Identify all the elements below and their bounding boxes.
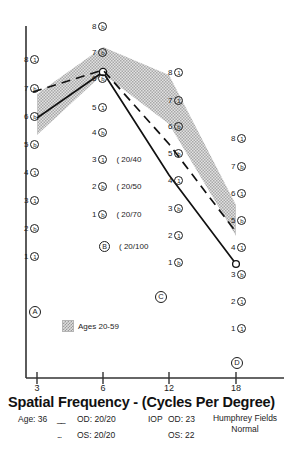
cs-entry-col18-8: 8 1 [231,134,246,143]
cs-entry-col18-6: 6 1 [231,189,246,198]
cs-num: 7 [24,85,28,93]
cs-num: 1 [92,211,96,219]
cs-entry-col6-6: 6 b [92,74,107,83]
cs-entry-col12-3: 3 b [168,204,183,213]
annotation-letter: A [29,306,41,318]
cs-num: 1 [168,259,172,267]
letter-circle-icon: 1 [30,196,39,205]
cs-num: 4 [24,169,28,177]
cs-num: 3 [231,271,235,279]
letter-circle-icon: b [98,128,107,137]
letter-circle-icon: b [30,224,39,233]
annotation-marker-a: A [29,300,41,318]
iop-os: OS: 22 [168,430,194,440]
letter-circle-icon: 1 [237,297,246,306]
letter-circle-icon: b [174,258,183,267]
od-line-style-key: __ [57,414,64,424]
cs-entry-col12-6: 6 b [168,122,183,131]
annotation-marker-d: D [231,351,243,369]
letter-circle-icon: b [237,162,246,171]
x-tick-label-12: 12 [164,383,174,393]
letter-circle-icon: 1 [174,231,183,240]
letter-circle-icon: 1 [237,189,246,198]
snellen-equivalent: ( 20/40 [116,156,141,164]
cs-entry-col3-5: 5 b [24,140,39,149]
iop-label: IOP [148,414,163,424]
snellen-equivalent: ( 20/70 [116,211,141,219]
cs-num: 4 [168,177,172,185]
cs-entry-col3-2: 2 b [24,224,39,233]
letter-circle-icon: b [98,210,107,219]
cs-num: 3 [24,197,28,205]
legend-label: Ages 20-59 [78,322,119,331]
cs-entry-col12-1: 1 b [168,258,183,267]
letter-circle-icon: 1 [30,55,39,64]
x-tick-label-18: 18 [231,383,241,393]
cs-entry-col3-6: 6 b [24,112,39,121]
cs-entry-col6-4: 4 b [92,128,107,137]
cs-num: 1 [231,325,235,333]
cs-entry-col6-3: 3 1 ( 20/40 [92,155,141,164]
letter-circle-icon: 1 [30,252,39,261]
cs-num: 2 [168,232,172,240]
cs-entry-col12-4: 4 1 [168,176,183,185]
annotation-marker-c: C [155,285,167,303]
cs-entry-col18-4: 4 1 [231,243,246,252]
cs-num: 5 [231,217,235,225]
cs-entry-col3-8: 8 1 [24,55,39,64]
cs-num: 2 [231,298,235,306]
letter-circle-icon: b [174,122,183,131]
cs-entry-col6-blank: B ( 20/100 [99,241,148,252]
cs-entry-col12-2: 2 1 [168,231,183,240]
cs-num: 8 [24,56,28,64]
cs-num: 4 [92,129,96,137]
legend: Ages 20-59 [62,320,119,332]
cs-num: 8 [92,23,96,31]
cs-entry-col6-5: 5 1 [92,103,107,112]
cs-entry-col18-1: 1 1 [231,324,246,333]
os-line-style-key: ... [57,430,61,440]
letter-circle-icon: b [174,149,183,158]
cs-num: 7 [168,97,172,105]
letter-circle-icon: b [98,74,107,83]
cs-num: 2 [92,183,96,191]
letter-circle-icon: 1 [98,155,107,164]
cs-entry-col18-3: 3 b [231,270,246,279]
cs-num: 5 [168,150,172,158]
cs-num: 3 [92,156,96,164]
cs-entry-col6-1: 1 b ( 20/70 [92,210,141,219]
iop-od: OD: 23 [168,414,195,424]
letter-circle-icon: b [98,22,107,31]
letter-circle-icon: b [174,204,183,213]
cs-entry-col3-3: 3 1 [24,196,39,205]
cs-entry-col3-7: 7 b [24,84,39,93]
humphrey-fields-line1: Humphrey Fields [205,413,285,424]
os-acuity: OS: 20/20 [77,430,115,440]
cs-entry-col18-2: 2 1 [231,297,246,306]
letter-circle-icon: b [30,112,39,121]
cs-num: 1 [24,253,28,261]
letter-circle-icon: 1 [174,176,183,185]
annotation-letter: D [231,357,243,369]
x-tick-label-3: 3 [34,383,39,393]
cs-num: 5 [92,104,96,112]
normal-range-band [37,47,236,236]
cs-num: 4 [231,244,235,252]
letter-circle-icon: b [30,84,39,93]
age-label: Age: 36 [18,414,47,424]
letter-circle-icon: b [98,182,107,191]
cs-num: 5 [24,141,28,149]
letter-circle-icon: b [30,140,39,149]
cs-entry-col12-8: 8 1 [168,68,183,77]
od-acuity: OD: 20/20 [77,414,116,424]
normal-range-swatch-icon [62,320,74,332]
snellen-equivalent: ( 20/50 [116,183,141,191]
cs-num: 7 [231,163,235,171]
cs-entry-col6-7: 7 b [92,48,107,57]
humphrey-fields-line2: Normal [205,424,285,435]
letter-circle-icon: B [99,241,110,252]
letter-circle-icon: 1 [98,103,107,112]
letter-circle-icon: 1 [174,96,183,105]
x-tick-label-6: 6 [100,383,105,393]
cs-entry-col18-5: 5 b [231,216,246,225]
